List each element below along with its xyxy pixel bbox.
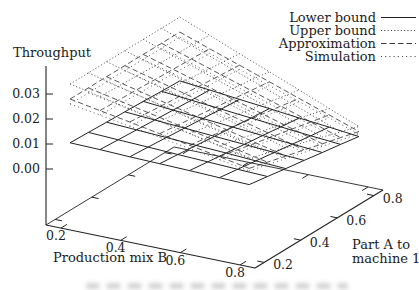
x-tick-mirror (302, 175, 308, 179)
legend-line-samples (381, 18, 416, 57)
y-tick (367, 194, 374, 195)
y-tick-label: 0.4 (310, 235, 330, 250)
y-tick-label: 0.6 (346, 213, 366, 228)
y-tick-mirror (128, 175, 135, 176)
plot-canvas: 0.000.010.020.030.20.40.60.80.20.40.60.8… (0, 0, 419, 290)
legend-label-simulation: Simulation (305, 49, 377, 64)
z-tick-label: 0.00 (12, 161, 40, 176)
z-tick-label: 0.01 (12, 136, 40, 151)
y-tick-label: 0.8 (383, 191, 403, 206)
y-tick (330, 216, 337, 217)
z-axis-label: Throughput (13, 45, 92, 60)
x-tick-mirror (362, 187, 368, 191)
y-axis-label-line2: machine 1 (352, 251, 419, 266)
z-axis: 0.000.010.020.03 (12, 66, 53, 225)
x-tick-label: 0.2 (46, 228, 66, 243)
legend: Lower bound Upper bound Approximation Si… (278, 10, 416, 64)
z-tick-label: 0.03 (12, 86, 40, 101)
x-tick-label: 0.6 (165, 253, 185, 268)
base-back-left-edge (46, 147, 174, 225)
y-axis-label-line1: Part A to (352, 237, 410, 252)
x-tick-label: 0.8 (225, 265, 245, 280)
z-tick-label: 0.02 (12, 111, 40, 126)
y-tick (257, 261, 264, 262)
cropped-caption-blur (86, 283, 348, 289)
y-tick-mirror (92, 197, 99, 198)
y-tick (294, 239, 301, 240)
y-tick-label: 0.2 (273, 257, 293, 272)
x-axis-label: Production mix B (53, 250, 167, 265)
y-tick-mirror (55, 219, 62, 220)
figure-3d-throughput-plot: 0.000.010.020.030.20.40.60.80.20.40.60.8… (0, 0, 419, 290)
